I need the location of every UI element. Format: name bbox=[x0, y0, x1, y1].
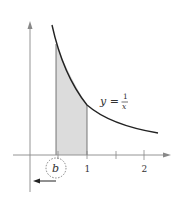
tick-label-2: 2 bbox=[142, 164, 148, 174]
function-label-lhs: y = bbox=[99, 95, 119, 108]
x-axis-arrow-icon bbox=[163, 153, 171, 158]
y-axis-arrow-icon bbox=[28, 21, 33, 29]
b-label: b bbox=[52, 162, 59, 175]
function-label-numerator: 1 bbox=[123, 92, 128, 101]
function-label-denominator: x bbox=[122, 102, 127, 111]
left-arrow-icon bbox=[33, 179, 40, 184]
tick-label-1: 1 bbox=[85, 164, 91, 174]
graph: 1 2 y = 1 x b bbox=[0, 0, 183, 210]
